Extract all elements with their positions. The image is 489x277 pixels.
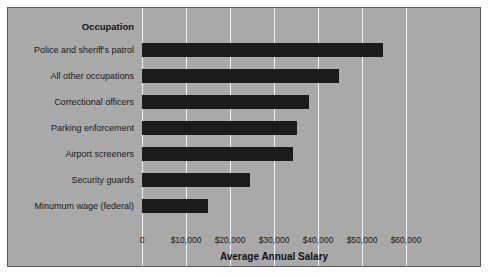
bar <box>142 147 293 161</box>
plot-area: Police and sheriff's patrolAll other occ… <box>8 8 480 266</box>
category-label: All other occupations <box>50 69 134 83</box>
category-label: Parking enforcement <box>51 121 134 135</box>
gridline-60000 <box>406 8 407 266</box>
x-tick-label: 0 <box>140 235 145 246</box>
bar <box>142 95 309 109</box>
bar <box>142 69 339 83</box>
category-label: Minumum wage (federal) <box>34 199 134 213</box>
x-axis-title: Average Annual Salary <box>220 251 328 263</box>
x-tick-label: $40,000 <box>303 235 334 246</box>
x-tick-label: $20,000 <box>215 235 246 246</box>
x-tick-label: $30,000 <box>259 235 290 246</box>
x-tick-label: $50,000 <box>347 235 378 246</box>
category-label: Police and sheriff's patrol <box>34 43 134 57</box>
chart-panel: Police and sheriff's patrolAll other occ… <box>7 7 481 267</box>
bar <box>142 43 383 57</box>
category-axis-title: Occupation <box>82 21 134 33</box>
category-label: Correctional officers <box>54 95 134 109</box>
category-label: Airport screeners <box>65 147 134 161</box>
x-tick-label: $10,000 <box>171 235 202 246</box>
bar <box>142 173 250 187</box>
category-label: Security guards <box>71 173 134 187</box>
x-tick-label: $60,000 <box>391 235 422 246</box>
bar <box>142 121 297 135</box>
chart-figure: Police and sheriff's patrolAll other occ… <box>0 0 489 277</box>
bar <box>142 199 208 213</box>
